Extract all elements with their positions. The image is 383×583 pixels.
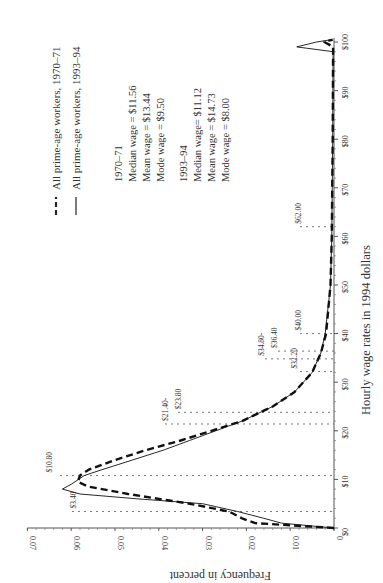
wage-tick-label: $40 [341,330,350,342]
reference-label: $23.80 [174,388,183,409]
frequency-tick-label: 0.07 [28,536,37,550]
wage-tick-label: $80 [341,135,350,147]
frequency-tick-label: 0.05 [116,536,125,550]
stats-block: 1970–71 Median wage = $11.56 Mean wage =… [113,85,231,182]
reference-lines: $3.40$10.80$21.40-$23.80$32.20$34.80-$36… [45,203,334,512]
wage-distribution-chart: $3.40$10.80$21.40-$23.80$32.20$34.80-$36… [0,0,383,583]
legend-item-1970: All prime-age workers, 1970–71 [50,46,62,190]
wage-tick-label: $70 [341,184,350,196]
reference-label: $40.00 [294,310,303,331]
stats-heading-1970: 1970–71 [113,145,124,182]
stats-mode-1970: Mode wage = $9.50 [155,98,166,182]
wage-tick-label: $60 [341,232,350,244]
reference-label: $3.40 [69,491,78,508]
frequency-tick-label: 0.04 [160,536,169,550]
reference-label: $36.40 [270,327,279,348]
frequency-tick-label: 0.02 [247,536,256,550]
reference-label: $21.40- [161,397,170,421]
frequency-tick-label: 0 [335,536,344,540]
frequency-tick-label: 0.03 [204,536,213,550]
wage-tick-label: $20 [341,427,350,439]
reference-label: $62.00 [294,203,303,224]
stats-median-1993: Median wage= $11.12 [192,88,203,182]
stats-mean-1993: Mean wage = $14.73 [206,93,217,182]
y-axis-title: Frequency in percent [169,569,271,583]
legend-item-1993: All prime-age workers, 1993–94 [70,46,82,190]
stats-median-1970: Median wage = $11.56 [127,85,138,182]
wage-tick-label: $10 [341,475,350,487]
stats-heading-1993: 1993–94 [178,145,189,183]
chart-canvas: $3.40$10.80$21.40-$23.80$32.20$34.80-$36… [0,0,383,583]
wage-tick-label: $90 [341,87,350,99]
wage-tick-label: $30 [341,378,350,390]
wage-tick-label: $50 [341,281,350,293]
wage-tick-label: $100 [341,34,350,50]
frequency-tick-label: 0.06 [72,536,81,550]
x-axis-title: Hourly wage rates in 1994 dollars [359,245,373,415]
legend: All prime-age workers, 1970–71 All prime… [50,46,82,215]
wage-tick-label: $0 [341,528,350,536]
stats-mean-1970: Mean wage = $13.44 [141,93,152,182]
reference-label: $34.80- [257,332,266,356]
stats-mode-1993: Mode wage = $8.00 [220,98,231,182]
frequency-tick-label: 0.01 [291,536,300,550]
reference-label: $10.80 [45,452,54,473]
